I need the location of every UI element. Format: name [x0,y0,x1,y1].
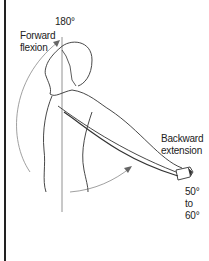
range-label-line3: 60° [185,210,200,221]
flexion-arc [17,42,58,172]
backward-extension-label-line1: Backward [161,133,203,144]
range-label-line2: to [185,198,193,209]
backward-extension-label-line2: extension [161,145,202,156]
angle-180-label: 180° [55,16,75,27]
forward-flexion-label-line1: Forward [20,30,55,41]
extension-arc [70,168,130,192]
range-label-line1: 50° [185,186,200,197]
forward-flexion-label-line2: flexion [20,42,48,53]
flexion-arrowhead-icon [53,40,60,47]
